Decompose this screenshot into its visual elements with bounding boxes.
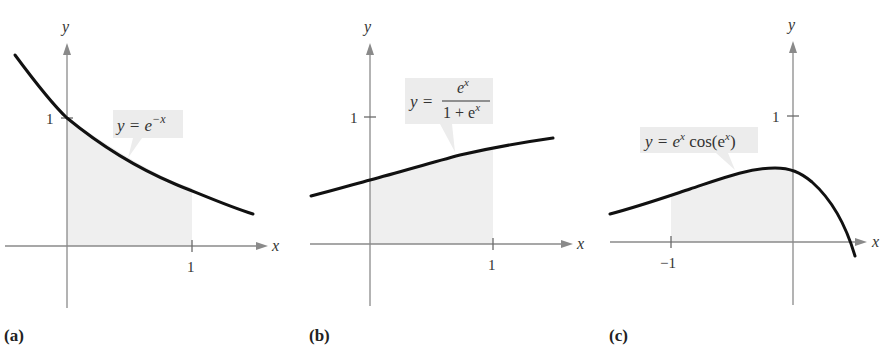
y-tick-label-a: 1 [46, 111, 54, 127]
panel-a: y x 1 1 y = e−x (a) [4, 18, 279, 345]
callout-pointer-b [440, 124, 455, 152]
panel-b: y x 1 1 y = ex 1 + ex (b) [309, 18, 584, 345]
y-axis-label-c: y [786, 16, 796, 34]
callout-pointer-a [128, 138, 142, 158]
x-axis-label-b: x [576, 235, 584, 252]
panel-label-a: (a) [4, 326, 24, 345]
x-tick-label-c: −1 [660, 255, 676, 271]
figure: y x 1 1 y = e−x (a) y x 1 1 y = ex 1 [0, 0, 882, 351]
panel-label-b: (b) [309, 326, 330, 345]
y-axis-arrow-icon-b [366, 43, 374, 55]
y-tick-label-c: 1 [772, 109, 780, 125]
x-tick-label-a: 1 [187, 259, 195, 275]
y-axis-label-a: y [60, 18, 70, 36]
x-axis-arrow-icon-a [256, 242, 268, 250]
svg-text:1 + ex: 1 + ex [443, 101, 480, 121]
equation-c: y = ex cos(ex) [643, 130, 736, 151]
x-axis-label-a: x [271, 237, 279, 254]
y-axis-label-b: y [362, 18, 372, 36]
y-axis-arrow-icon-a [63, 43, 71, 55]
x-axis-arrow-icon-b [561, 240, 573, 248]
y-axis-arrow-icon-c [789, 41, 797, 53]
svg-text:y =: y = [408, 92, 433, 111]
panel-c: y x −1 1 y = ex cos(ex) (c) [609, 16, 879, 345]
x-axis-label-c: x [871, 233, 879, 250]
x-axis-arrow-icon-c [855, 238, 867, 246]
y-tick-label-b: 1 [350, 110, 358, 126]
panel-label-c: (c) [609, 326, 628, 345]
x-tick-label-b: 1 [488, 257, 496, 273]
callout-pointer-c [716, 153, 735, 170]
shaded-area-c [671, 168, 793, 242]
